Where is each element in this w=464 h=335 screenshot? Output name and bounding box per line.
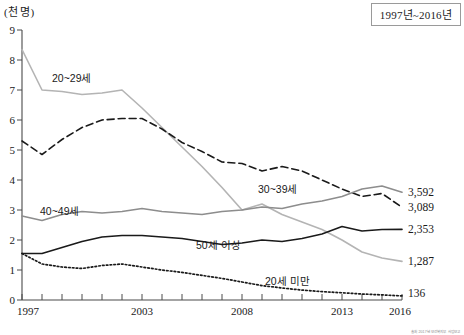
y-tick-label-7: 7 bbox=[10, 84, 16, 96]
series-inline-label-under20: 20세 미만 bbox=[265, 275, 310, 287]
series-line-1 bbox=[22, 119, 402, 208]
end-label-3: 2,353 bbox=[408, 223, 434, 236]
y-tick-label-2: 2 bbox=[10, 234, 16, 246]
y-tick-label-5: 5 bbox=[10, 144, 16, 156]
source-note: 출처 2017년 보건복지부 사업보고 bbox=[411, 329, 460, 334]
series-paths-group bbox=[22, 50, 402, 296]
x-tick-label-2016: 2016 bbox=[389, 305, 412, 317]
chart-root: (천 명) 1997년~2016년 0123456789 19972003200… bbox=[0, 0, 464, 335]
series-line-4 bbox=[22, 254, 402, 296]
series-inline-label-s40_49: 40~49세 bbox=[40, 205, 80, 217]
y-tick-label-3: 3 bbox=[10, 204, 16, 216]
x-tick-label-1997: 1997 bbox=[17, 305, 40, 317]
x-tick-label-2008: 2008 bbox=[231, 305, 254, 317]
y-tick-label-4: 4 bbox=[10, 174, 16, 186]
end-label-0: 1,287 bbox=[408, 255, 434, 268]
x-axis-tick-labels: 19972003200820132016 bbox=[17, 305, 412, 317]
x-axis-ticks bbox=[22, 294, 402, 300]
y-tick-label-6: 6 bbox=[10, 114, 16, 126]
series-end-value-labels: 1,2873,0893,5922,353136 bbox=[408, 186, 434, 299]
series-inline-label-s20_29: 20~29세 bbox=[52, 72, 92, 84]
y-tick-label-9: 9 bbox=[10, 24, 16, 36]
end-label-4: 136 bbox=[408, 287, 426, 299]
series-inline-label-s50up: 50세 이상 bbox=[196, 239, 241, 251]
x-tick-label-2013: 2013 bbox=[331, 305, 354, 317]
y-tick-label-1: 1 bbox=[10, 264, 16, 276]
y-tick-label-8: 8 bbox=[10, 54, 16, 66]
end-label-2: 3,592 bbox=[408, 186, 434, 199]
y-axis-ticks: 0123456789 bbox=[10, 24, 23, 306]
line-chart-plot: 0123456789 19972003200820132016 1,2873,0… bbox=[0, 0, 464, 335]
series-inline-labels: 20~29세30~39세40~49세50세 이상20세 미만 bbox=[40, 72, 310, 287]
series-inline-label-s30_39: 30~39세 bbox=[258, 183, 298, 195]
y-tick-label-0: 0 bbox=[10, 294, 16, 306]
x-tick-label-2003: 2003 bbox=[131, 305, 154, 317]
end-label-1: 3,089 bbox=[408, 201, 434, 214]
